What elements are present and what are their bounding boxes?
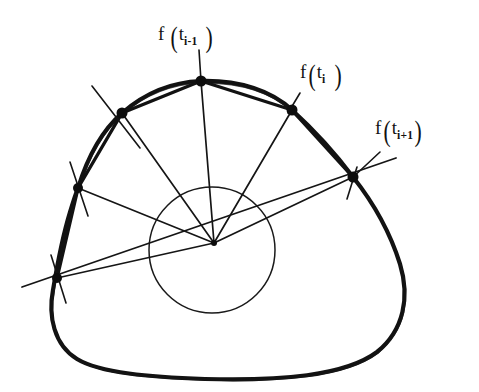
figure-root: f(ti-1) f(ti) f(ti+1) xyxy=(0,0,479,392)
label-0-close-paren: ) xyxy=(206,26,213,48)
label-f-t-i-plus-1: f(ti+1) xyxy=(375,118,423,141)
ray-to-point-f-t-i xyxy=(214,110,292,243)
label-2-open-paren: ( xyxy=(383,120,390,142)
label-f-t-i-minus-1: f(ti-1) xyxy=(158,24,214,47)
ray-to-point-f-t-i-plus-1 xyxy=(214,177,353,243)
marker-point-left xyxy=(73,183,83,193)
label-0-open-paren: ( xyxy=(170,26,177,48)
chord-ti-to-ti-plus-1 xyxy=(292,110,353,177)
outer-closed-curve-group xyxy=(51,81,405,380)
chord-upperleft-to-ti-minus-1 xyxy=(122,81,201,113)
outer-closed-curve xyxy=(51,81,404,379)
marker-point-f-t-i-plus-1 xyxy=(348,172,359,183)
radial-rays-group xyxy=(57,81,353,278)
marker-point-upper-left xyxy=(117,108,128,119)
label-2-subscript: i+1 xyxy=(397,129,413,141)
label-1-subscript: i xyxy=(322,73,325,85)
outer-closed-curve-echo xyxy=(52,83,405,380)
label-2-f: f xyxy=(375,117,382,138)
label-f-t-i: f(ti) xyxy=(300,62,343,85)
label-1-f: f xyxy=(300,61,307,82)
chord-left-to-upperleft xyxy=(78,113,122,188)
marker-pole xyxy=(211,240,217,246)
inscribed-polygon-group xyxy=(57,81,353,278)
ray-to-point-f-t-i-minus-1 xyxy=(201,81,214,243)
label-0-subscript: i-1 xyxy=(184,35,197,47)
marker-point-f-t-i xyxy=(287,105,298,116)
marker-point-f-t-i-minus-1 xyxy=(196,76,207,87)
chord-bottomleft-to-left xyxy=(57,188,78,278)
label-1-close-paren: ) xyxy=(334,64,341,86)
label-0-f: f xyxy=(158,23,165,44)
marker-point-bottom-left xyxy=(52,273,62,283)
label-2-close-paren: ) xyxy=(415,120,422,142)
curve-point-markers xyxy=(52,76,359,284)
label-1-open-paren: ( xyxy=(308,64,315,86)
geometry-diagram-svg xyxy=(0,0,479,392)
